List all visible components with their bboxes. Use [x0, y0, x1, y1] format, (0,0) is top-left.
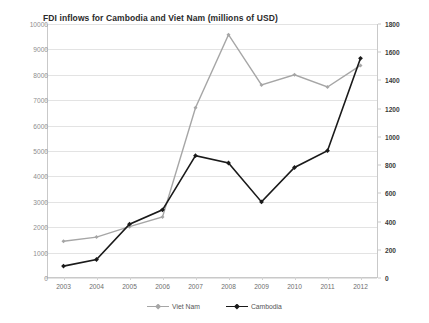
- right-axis-tick-label: 600: [385, 190, 396, 197]
- x-axis-tick-label: 2011: [320, 283, 334, 290]
- x-axis-tick-mark: [361, 277, 362, 280]
- right-axis-tick-mark: [378, 221, 381, 222]
- right-axis-line: [377, 24, 378, 278]
- right-axis-tick-mark: [378, 108, 381, 109]
- left-axis-tick-mark: [44, 151, 47, 152]
- right-axis-tick-mark: [378, 136, 381, 137]
- x-axis-tick-mark: [130, 277, 131, 280]
- x-axis-tick-label: 2012: [353, 283, 368, 290]
- right-axis-tick-label: 1000: [385, 133, 400, 140]
- right-axis-tick-label: 1400: [385, 77, 400, 84]
- right-axis-tick-mark: [378, 80, 381, 81]
- series-line-viet-nam: [64, 35, 361, 242]
- left-axis-tick-mark: [44, 125, 47, 126]
- x-axis-tick-mark: [64, 277, 65, 280]
- right-axis-tick-mark: [378, 278, 381, 279]
- x-axis-tick-label: 2006: [155, 283, 170, 290]
- legend-item-cambodia[interactable]: Cambodia: [226, 303, 282, 310]
- right-axis-tick-mark: [378, 249, 381, 250]
- x-axis-tick-label: 2004: [89, 283, 104, 290]
- x-axis-tick-label: 2010: [287, 283, 302, 290]
- right-axis-tick-mark: [378, 193, 381, 194]
- right-axis-tick-label: 1600: [385, 49, 400, 56]
- x-axis-tick-label: 2008: [221, 283, 236, 290]
- right-axis-tick-label: 1200: [385, 105, 400, 112]
- x-axis-tick-mark: [295, 277, 296, 280]
- left-axis-tick-mark: [44, 201, 47, 202]
- left-axis-tick-mark: [44, 278, 47, 279]
- left-axis-tick-mark: [44, 24, 47, 25]
- series-lines: [47, 24, 377, 278]
- chart-title: FDI inflows for Cambodia and Viet Nam (m…: [43, 13, 278, 23]
- legend-label-viet-nam: Viet Nam: [172, 303, 200, 310]
- x-axis-tick-mark: [196, 277, 197, 280]
- chart-container: FDI inflows for Cambodia and Viet Nam (m…: [0, 0, 429, 323]
- left-axis-tick-mark: [44, 74, 47, 75]
- x-axis-tick-label: 2007: [188, 283, 203, 290]
- legend-label-cambodia: Cambodia: [251, 303, 282, 310]
- left-axis-tick-mark: [44, 100, 47, 101]
- x-axis-tick-label: 2005: [122, 283, 137, 290]
- x-axis-tick-mark: [97, 277, 98, 280]
- data-point: [61, 264, 66, 269]
- left-axis-tick-mark: [44, 176, 47, 177]
- right-axis-tick-label: 0: [385, 275, 389, 282]
- legend-item-viet-nam[interactable]: Viet Nam: [147, 303, 200, 310]
- chart-legend: Viet Nam Cambodia: [0, 303, 429, 310]
- data-point: [358, 56, 363, 61]
- right-axis-tick-mark: [378, 24, 381, 25]
- right-axis-tick-label: 800: [385, 162, 396, 169]
- series-line-cambodia: [64, 58, 361, 266]
- data-point: [293, 73, 297, 77]
- x-axis-tick-label: 2003: [56, 283, 71, 290]
- right-axis-tick-label: 200: [385, 246, 396, 253]
- x-axis-tick-mark: [262, 277, 263, 280]
- data-point: [95, 235, 99, 239]
- left-axis-tick-mark: [44, 252, 47, 253]
- right-axis-tick-mark: [378, 52, 381, 53]
- data-point: [161, 215, 165, 219]
- x-axis-tick-mark: [229, 277, 230, 280]
- x-axis-tick-mark: [328, 277, 329, 280]
- right-axis-tick-label: 1800: [385, 21, 400, 28]
- left-axis-tick-mark: [44, 49, 47, 50]
- right-axis-tick-label: 400: [385, 218, 396, 225]
- x-axis-tick-mark: [163, 277, 164, 280]
- legend-marker-viet-nam: [147, 303, 169, 310]
- x-axis-tick-label: 2009: [254, 283, 269, 290]
- plot-area: [47, 24, 377, 278]
- right-axis-tick-mark: [378, 165, 381, 166]
- legend-marker-cambodia: [226, 303, 248, 310]
- data-point: [62, 239, 66, 243]
- left-axis-tick-mark: [44, 227, 47, 228]
